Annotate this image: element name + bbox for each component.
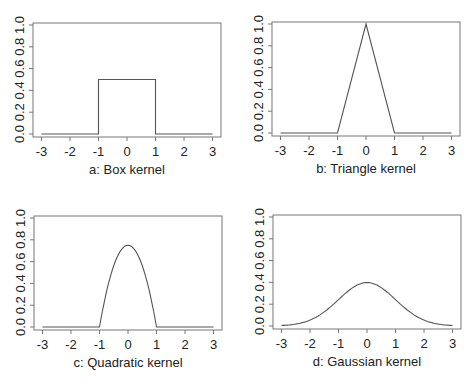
y-tick-label: 0.8 <box>13 231 28 249</box>
x-tick-label: 1 <box>152 144 159 159</box>
x-tick-label: 2 <box>181 337 188 352</box>
y-tick-label: 0.8 <box>252 230 267 248</box>
panel-caption: a: Box kernel <box>89 162 165 177</box>
plot-frame <box>34 216 222 330</box>
y-tick-label: 0.0 <box>13 318 28 336</box>
y-tick-label: 0.0 <box>252 317 267 335</box>
x-tick-label: -1 <box>333 336 345 351</box>
y-axis: 0.00.20.40.60.81.0 <box>13 209 34 336</box>
x-tick-label: -3 <box>37 337 49 352</box>
panel-b-triangle-kernel: -3-2-10123b: Triangle kernel0.00.20.40.6… <box>251 15 460 176</box>
kernel-figure: -3-2-10123a: Box kernel0.00.20.40.60.81.… <box>0 0 473 386</box>
y-tick-label: 0.2 <box>12 103 27 121</box>
panel-caption: d: Gaussian kernel <box>313 354 422 369</box>
x-tick-label: -2 <box>303 143 315 158</box>
y-tick-label: 0.6 <box>251 59 266 77</box>
kernel-curve <box>43 245 214 327</box>
x-tick-label: 3 <box>448 143 455 158</box>
x-tick-label: 2 <box>420 336 427 351</box>
x-tick-label: 0 <box>362 143 369 158</box>
x-tick-label: 0 <box>363 336 370 351</box>
kernel-curve <box>281 24 452 133</box>
x-tick-label: -2 <box>64 144 76 159</box>
x-tick-label: 3 <box>209 144 216 159</box>
y-tick-label: 1.0 <box>12 16 27 34</box>
x-tick-label: -3 <box>276 336 288 351</box>
x-tick-label: 0 <box>123 144 130 159</box>
x-tick-label: -2 <box>65 337 77 352</box>
x-axis: -3-2-10123 <box>276 329 456 351</box>
x-tick-label: -1 <box>94 337 106 352</box>
y-tick-label: 0.4 <box>12 81 27 99</box>
x-tick-label: 3 <box>210 337 217 352</box>
panel-caption: b: Triangle kernel <box>316 161 416 176</box>
plot-frame <box>272 22 460 136</box>
y-tick-label: 0.8 <box>12 38 27 56</box>
y-tick-label: 0.6 <box>252 252 267 270</box>
panel-d-gaussian-kernel: -3-2-10123d: Gaussian kernel0.00.20.40.6… <box>252 208 461 369</box>
x-tick-label: 2 <box>419 143 426 158</box>
y-tick-label: 0.6 <box>13 253 28 271</box>
y-tick-label: 0.2 <box>251 102 266 120</box>
kernel-curve <box>282 283 453 326</box>
x-tick-label: -1 <box>93 144 105 159</box>
figure-canvas: -3-2-10123a: Box kernel0.00.20.40.60.81.… <box>0 0 473 386</box>
panel-caption: c: Quadratic kernel <box>73 355 182 370</box>
y-tick-label: 0.2 <box>252 295 267 313</box>
y-tick-label: 0.4 <box>13 274 28 292</box>
y-tick-label: 0.4 <box>251 80 266 98</box>
x-tick-label: -3 <box>275 143 287 158</box>
y-tick-label: 1.0 <box>13 209 28 227</box>
y-axis: 0.00.20.40.60.81.0 <box>12 16 33 143</box>
x-tick-label: -3 <box>36 144 48 159</box>
x-axis: -3-2-10123 <box>37 330 217 352</box>
panel-c-quadratic-kernel: -3-2-10123c: Quadratic kernel0.00.20.40.… <box>13 209 222 370</box>
x-tick-label: 2 <box>180 144 187 159</box>
x-axis: -3-2-10123 <box>275 136 455 158</box>
x-tick-label: 0 <box>124 337 131 352</box>
y-tick-label: 0.0 <box>12 125 27 143</box>
x-tick-label: 3 <box>449 336 456 351</box>
y-axis: 0.00.20.40.60.81.0 <box>251 15 272 142</box>
y-tick-label: 0.0 <box>251 124 266 142</box>
y-tick-label: 0.8 <box>251 37 266 55</box>
y-tick-label: 1.0 <box>252 208 267 226</box>
x-tick-label: -2 <box>304 336 316 351</box>
kernel-curve <box>42 80 213 135</box>
y-tick-label: 0.2 <box>13 296 28 314</box>
x-tick-label: 1 <box>391 143 398 158</box>
x-tick-label: 1 <box>153 337 160 352</box>
x-tick-label: -1 <box>332 143 344 158</box>
y-tick-label: 0.4 <box>252 273 267 291</box>
y-tick-label: 0.6 <box>12 60 27 78</box>
x-axis: -3-2-10123 <box>36 137 216 159</box>
y-tick-label: 1.0 <box>251 15 266 33</box>
x-tick-label: 1 <box>392 336 399 351</box>
plot-frame <box>273 215 461 329</box>
panel-a-box-kernel: -3-2-10123a: Box kernel0.00.20.40.60.81.… <box>12 16 221 177</box>
y-axis: 0.00.20.40.60.81.0 <box>252 208 273 335</box>
